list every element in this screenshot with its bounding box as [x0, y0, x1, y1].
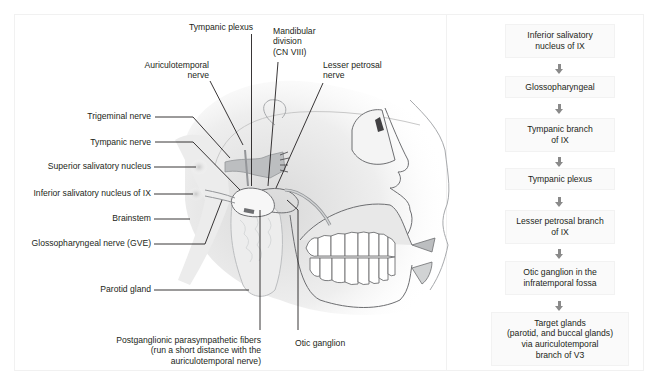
label-tympanic-nerve: Tympanic nerve — [40, 137, 151, 147]
flow-step-target-glands: Target glands (parotid, and buccal gland… — [491, 312, 629, 366]
label-trigeminal-nerve: Trigeminal nerve — [40, 111, 151, 121]
label-parotid-gland: Parotid gland — [40, 284, 151, 294]
label-superior-salivatory-nucleus: Superior salivatory nucleus — [10, 161, 151, 171]
label-postganglionic-fibers: Postganglionic parasympathetic fibers (r… — [100, 335, 261, 366]
flow-step-otic-ganglion: Otic ganglion in theinfratemporal fossa — [505, 261, 615, 295]
flow-step-glossopharyngeal: Glossopharyngeal — [505, 76, 615, 98]
label-auriculotemporal-nerve: Auriculotemporal nerve — [138, 60, 209, 81]
flow-step-inferior-salivatory-nucleus: Inferior salivatorynucleus of IX — [505, 24, 615, 58]
label-mandibular-division: Mandibular division (CN VIII) — [273, 26, 316, 57]
label-tympanic-plexus: Tympanic plexus — [189, 22, 253, 32]
label-glossopharyngeal-nerve: Glossopharyngeal nerve (GVE) — [10, 238, 151, 248]
label-otic-ganglion: Otic ganglion — [295, 338, 345, 348]
flow-step-lesser-petrosal-branch: Lesser petrosal branchof IX — [505, 210, 615, 244]
label-inferior-salivatory-nucleus: Inferior salivatory nucleus of IX — [10, 188, 151, 198]
flow-step-tympanic-branch: Tympanic branchof IX — [505, 118, 615, 152]
flow-step-tympanic-plexus: Tympanic plexus — [505, 168, 615, 190]
label-lesser-petrosal-nerve: Lesser petrosal nerve — [323, 60, 382, 81]
label-brainstem: Brainstem — [40, 213, 151, 223]
